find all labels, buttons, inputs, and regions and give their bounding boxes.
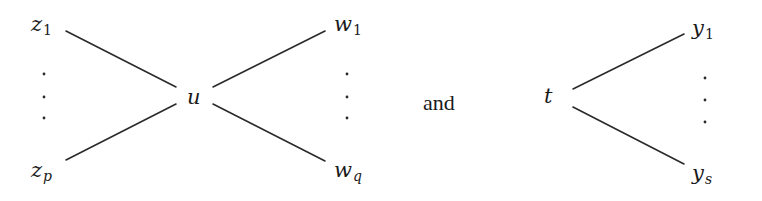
diagram-canvas: z1 zp u w1 wq and t y1 ys	[0, 0, 762, 201]
right-graph-edges	[573, 34, 684, 164]
edges-layer	[0, 0, 762, 201]
node-t: t	[544, 86, 552, 107]
edge-u-wq	[213, 104, 325, 161]
node-ys: ys	[692, 163, 712, 186]
edge-t-ys	[573, 107, 684, 164]
node-u: u	[187, 87, 201, 108]
node-y1: y1	[692, 18, 714, 41]
node-w1: w1	[334, 14, 362, 37]
edge-u-w1	[213, 31, 325, 87]
right-vertical-ellipsis	[704, 77, 707, 124]
node-wq: wq	[334, 160, 362, 183]
node-zp: zp	[31, 160, 52, 183]
edge-z1-u	[66, 31, 176, 87]
node-z1: z1	[31, 14, 52, 37]
edge-zp-u	[66, 104, 176, 160]
edge-t-y1	[573, 34, 684, 89]
connector-word-and: and	[423, 92, 455, 114]
middle-vertical-ellipsis	[346, 73, 349, 120]
left-vertical-ellipsis	[43, 73, 46, 120]
